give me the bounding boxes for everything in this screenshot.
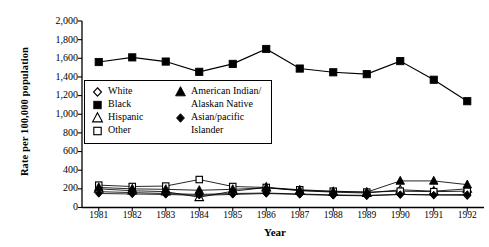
data-point-open-square bbox=[94, 127, 101, 134]
data-point-filled-diamond bbox=[177, 114, 185, 123]
data-point-filled-triangle bbox=[176, 87, 186, 96]
data-point-filled-square bbox=[162, 58, 169, 65]
data-point-filled-square bbox=[229, 60, 236, 67]
legend-label-other: Other bbox=[108, 124, 131, 137]
series-white bbox=[95, 188, 470, 199]
chart-legend: White Black Hispanic Other American Indi… bbox=[84, 80, 272, 144]
legend-marker-white bbox=[92, 86, 103, 97]
data-point-filled-triangle bbox=[396, 176, 404, 184]
legend-marker-other bbox=[92, 125, 103, 136]
data-point-filled-square bbox=[464, 98, 471, 105]
data-point-open-diamond bbox=[94, 88, 102, 97]
data-point-filled-square bbox=[363, 71, 370, 78]
data-point-filled-square bbox=[263, 45, 270, 52]
legend-label-american-indian-line2: Alaskan Native bbox=[191, 98, 253, 111]
data-point-open-square bbox=[196, 176, 202, 182]
data-point-filled-square bbox=[129, 54, 136, 61]
x-tick-label: 1992 bbox=[447, 210, 487, 220]
data-point-filled-square bbox=[397, 58, 404, 65]
legend-label-asian-pacific: Asian/pacific bbox=[191, 111, 244, 124]
legend-marker-black bbox=[92, 99, 103, 110]
chart-figure: Rate per 100,000 population 2,000 1,800 … bbox=[0, 0, 489, 247]
legend-label-hispanic: Hispanic bbox=[108, 111, 144, 124]
legend-label-american-indian: American Indian/ bbox=[191, 85, 261, 98]
data-point-filled-square bbox=[94, 101, 101, 108]
legend-label-asian-pacific-line2: Islander bbox=[191, 124, 223, 137]
legend-label-black: Black bbox=[108, 98, 131, 111]
legend-marker-american-indian bbox=[175, 86, 186, 97]
legend-marker-hispanic bbox=[92, 112, 103, 123]
data-point-filled-square bbox=[296, 65, 303, 72]
data-point-filled-square bbox=[430, 76, 437, 83]
data-point-filled-square bbox=[330, 69, 337, 76]
data-point-filled-square bbox=[95, 58, 102, 65]
data-point-filled-square bbox=[196, 68, 203, 75]
data-point-filled-triangle bbox=[430, 176, 438, 184]
data-point-open-triangle bbox=[93, 113, 103, 122]
series-other bbox=[96, 176, 471, 195]
x-axis-title: Year bbox=[215, 226, 335, 238]
legend-label-white: White bbox=[108, 85, 132, 98]
legend-marker-asian-pacific bbox=[175, 112, 186, 123]
